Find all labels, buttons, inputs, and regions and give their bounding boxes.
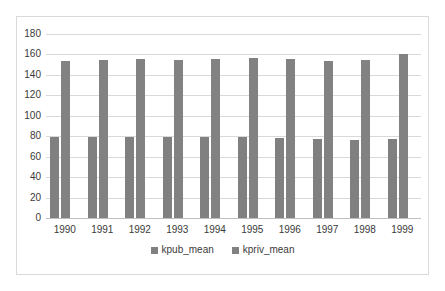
legend-item-kpub_mean[interactable]: kpub_mean (151, 245, 214, 255)
y-axis-tick-label: 40 (30, 172, 41, 182)
legend-swatch-icon (232, 247, 239, 254)
bar-kpriv_mean-1993 (174, 60, 183, 218)
y-axis-tick-label: 20 (30, 193, 41, 203)
legend-swatch-icon (151, 247, 158, 254)
legend-item-kpriv_mean[interactable]: kpriv_mean (232, 245, 295, 255)
bar-kpriv_mean-1995 (249, 58, 258, 218)
bar-group: 1996 (271, 34, 309, 218)
bar-kpub_mean-1996 (275, 138, 284, 218)
bar-kpriv_mean-1994 (211, 59, 220, 218)
bar-kpub_mean-1998 (350, 140, 359, 218)
bar-kpriv_mean-1999 (399, 54, 408, 218)
chart-frame: 020406080100120140160180 199019911992199… (16, 16, 429, 275)
bar-kpub_mean-1991 (88, 137, 97, 218)
x-axis-tick-label: 1994 (196, 225, 234, 235)
bar-kpub_mean-1995 (238, 137, 247, 218)
legend-label: kpriv_mean (243, 245, 295, 255)
bar-kpub_mean-1992 (125, 137, 134, 218)
bar-group: 1994 (196, 34, 234, 218)
bar-kpriv_mean-1997 (324, 61, 333, 218)
bar-group: 1990 (46, 34, 84, 218)
y-axis-tick-label: 120 (24, 90, 41, 100)
bar-kpriv_mean-1990 (61, 61, 70, 218)
x-axis-tick-label: 1991 (84, 225, 122, 235)
bar-kpub_mean-1997 (313, 139, 322, 218)
legend-label: kpub_mean (162, 245, 214, 255)
bar-kpriv_mean-1991 (99, 60, 108, 218)
bar-group: 1997 (309, 34, 347, 218)
x-axis-tick-label: 1993 (159, 225, 197, 235)
bar-kpriv_mean-1998 (361, 60, 370, 218)
y-axis-tick-label: 100 (24, 111, 41, 121)
y-axis-tick-label: 60 (30, 152, 41, 162)
x-axis-tick-label: 1992 (121, 225, 159, 235)
plot-area: 020406080100120140160180 199019911992199… (46, 34, 421, 218)
x-axis-tick-label: 1995 (234, 225, 272, 235)
y-axis-tick-label: 180 (24, 29, 41, 39)
x-axis-tick-label: 1990 (46, 225, 84, 235)
bar-group: 1991 (84, 34, 122, 218)
bar-group: 1993 (159, 34, 197, 218)
x-axis-tick-label: 1999 (384, 225, 422, 235)
gridline-0 (46, 218, 421, 219)
bar-kpub_mean-1999 (388, 139, 397, 218)
y-axis-tick-label: 80 (30, 131, 41, 141)
y-axis-tick-label: 140 (24, 70, 41, 80)
bar-kpub_mean-1994 (200, 137, 209, 218)
bar-group: 1999 (384, 34, 422, 218)
x-axis-tick-label: 1996 (271, 225, 309, 235)
chart-legend: kpub_meankpriv_mean (17, 245, 428, 255)
bar-group: 1992 (121, 34, 159, 218)
bar-kpub_mean-1990 (50, 137, 59, 218)
bar-group: 1998 (346, 34, 384, 218)
bar-kpriv_mean-1992 (136, 59, 145, 218)
x-axis-tick-label: 1998 (346, 225, 384, 235)
bar-kpriv_mean-1996 (286, 59, 295, 218)
x-axis-tick-label: 1997 (309, 225, 347, 235)
bar-kpub_mean-1993 (163, 137, 172, 218)
y-axis-tick-label: 0 (35, 213, 41, 223)
y-axis-tick-label: 160 (24, 49, 41, 59)
bar-group: 1995 (234, 34, 272, 218)
